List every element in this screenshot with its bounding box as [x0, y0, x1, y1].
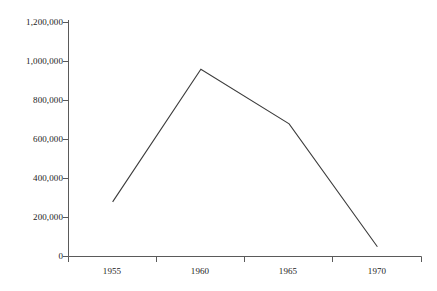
x-tick-label: 1955 — [103, 266, 121, 276]
y-tick-label: 800,000 — [33, 95, 63, 105]
line-chart: 1,200,000 1,000,000 800,000 600,000 400,… — [0, 0, 437, 291]
data-series-line — [113, 69, 378, 246]
y-tick-label: 600,000 — [33, 134, 63, 144]
x-tick-label: 1960 — [191, 266, 209, 276]
y-tick-label: 1,000,000 — [26, 56, 63, 66]
y-tick-label: 400,000 — [33, 173, 63, 183]
y-tick-label: 0 — [58, 251, 63, 261]
chart-canvas — [0, 0, 437, 291]
x-tick-label: 1965 — [279, 266, 297, 276]
y-tick-label: 200,000 — [33, 212, 63, 222]
x-tick-label: 1970 — [368, 266, 386, 276]
y-axis-ticks — [63, 23, 69, 257]
x-axis-ticks — [69, 257, 422, 263]
y-tick-label: 1,200,000 — [26, 17, 63, 27]
